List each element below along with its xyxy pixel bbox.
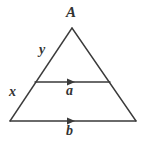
vertex-label-a: A <box>66 5 76 20</box>
segment-label-b: b <box>66 124 73 138</box>
segment-label-y: y <box>39 43 45 57</box>
segment-label-a: a <box>66 84 73 98</box>
geometry-figure: A y x a b <box>0 0 145 144</box>
segment-label-x: x <box>9 85 16 99</box>
triangle-right-side <box>72 28 136 121</box>
